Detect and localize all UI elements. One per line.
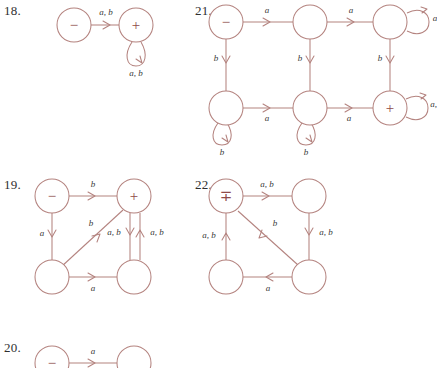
edge-label-start-to-accept: a, b [99,7,113,17]
edge-label-start-to-top-middle: a [265,5,270,15]
problem-19: 19. b a b a, b a, [0,165,195,305]
edge-label-lower-left-to-lower-right: a [91,283,96,293]
problem-18: 18. a, b a, b − + [0,0,195,80]
node-accept-state-glyph: + [130,188,138,204]
node-bottom-left-state [209,260,243,294]
node-bottom-left-state [209,91,243,125]
edge-accept-self-loop [406,96,428,119]
edge-label-bottom-right-to-bottom-left: a [266,283,271,293]
edge-label-accept-to-lower-right: a, b [107,227,121,237]
problem-21: 21. a a a b b [195,0,437,160]
node-lower-left-state [35,260,69,294]
node-start-state-glyph: − [48,188,56,204]
node-start-state-glyph: − [48,355,56,368]
node-lower-right-state [117,260,151,294]
node-top-right-state [292,179,326,213]
problem-19-diagram: b a b a, b a, b a [0,165,195,305]
edge-label-bottom-left-to-start: a, b [202,230,216,240]
edge-label-start-to-bottom-left: b [214,53,219,63]
edge-label-start-to-top-right: a, b [260,179,274,189]
node-top-right-state [373,5,407,39]
problem-21-diagram: a a a b b b [195,0,437,160]
node-accept-state-glyph: + [386,100,394,116]
edge-label-bottom-middle-to-accept: a [347,113,352,123]
edge-label-top-right-self-loop: a [433,13,437,23]
edge-label-bottom-left-to-bottom-middle: a [265,113,270,123]
node-bottom-right-state [292,260,326,294]
problem-22: 22. a, b a, b b a [195,165,390,305]
edge-label-bottom-middle-self-loop: b [304,147,309,157]
node-right-state [117,346,151,368]
edge-label-start-to-right: a [91,346,96,356]
edge-label-accept-self-loop: a, b [430,99,437,109]
edge-label-lower-left-to-accept-diagonal: b [89,218,94,228]
arrowhead-accept-self-loop [136,56,142,63]
edge-label-top-right-to-accept: b [378,53,383,63]
problem-22-diagram: a, b a, b b a a, b ∓ [195,165,390,305]
worksheet-page: 18. a, b a, b − + 21. [0,0,437,368]
node-bottom-middle-state [293,91,327,125]
node-start-state-glyph: − [222,14,230,30]
edge-label-bottom-right-to-start-diagonal: b [273,218,278,228]
node-start-accept-state-glyph: ∓ [220,188,233,204]
edge-label-start-to-accept: b [91,179,96,189]
edge-label-accept-self-loop: a, b [129,68,143,78]
node-top-middle-state [293,5,327,39]
arrowhead-bottom-middle-self-loop [306,135,312,142]
arrowhead-bottom-left-self-loop [222,135,228,142]
problem-20-diagram: a − [0,318,195,368]
edge-top-right-self-loop [407,10,429,33]
node-start-state-glyph: − [70,17,78,33]
edge-bottom-right-to-start-diagonal [238,211,298,265]
edge-label-top-middle-to-top-right: a [349,5,354,15]
edge-label-top-right-to-bottom-right: a, b [319,227,333,237]
problem-20: 20. a − [0,318,195,368]
node-accept-state-glyph: + [132,17,140,33]
edge-label-bottom-left-self-loop: b [220,147,225,157]
edge-accept-self-loop [127,42,145,66]
problem-18-diagram: a, b a, b − + [0,0,195,80]
edge-label-start-to-lower-left: a [40,228,45,238]
edge-label-lower-right-to-accept: a, b [150,227,164,237]
edge-label-top-middle-to-bottom-middle: b [298,53,303,63]
